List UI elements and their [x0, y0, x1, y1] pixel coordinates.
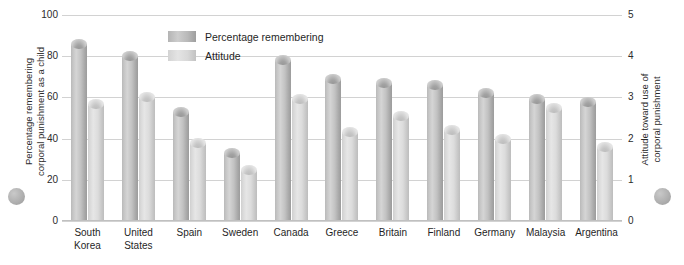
bar-percentage-remembering[interactable]: [427, 80, 443, 221]
category-axis-labels: SouthKoreaUnitedStatesSpainSwedenCanadaG…: [62, 227, 622, 265]
category-label-line1: Spain: [164, 227, 215, 240]
bar-top-ellipse: [597, 142, 613, 152]
bar-attitude[interactable]: [139, 92, 155, 221]
left-axis-tick-label: 40: [32, 133, 58, 145]
bar-attitude[interactable]: [393, 111, 409, 221]
bar-body: [342, 132, 358, 221]
bar-group: [571, 15, 622, 221]
bar-body: [139, 97, 155, 221]
bar-body: [224, 153, 240, 221]
bar-percentage-remembering[interactable]: [478, 88, 494, 221]
category-label: Greece: [317, 227, 368, 240]
bar-group: [62, 15, 113, 221]
bar-group: [113, 15, 164, 221]
legend-label: Attitude: [205, 50, 241, 62]
legend-item[interactable]: Attitude: [168, 47, 343, 64]
bar-top-ellipse: [190, 138, 206, 148]
right-axis-tick-label: 2: [628, 133, 654, 145]
category-label: Germany: [469, 227, 520, 240]
category-label: Spain: [164, 227, 215, 240]
bar-attitude[interactable]: [292, 94, 308, 221]
category-label: Malaysia: [520, 227, 571, 240]
bar-group: [418, 15, 469, 221]
right-axis-tick-label: 4: [628, 50, 654, 62]
left-axis-tick-label: 20: [32, 174, 58, 186]
left-axis-tick-label: 0: [32, 215, 58, 227]
bar-body: [478, 93, 494, 221]
bar-group: [520, 15, 571, 221]
bar-body: [71, 44, 87, 221]
bar-top-ellipse: [71, 39, 87, 49]
category-label-line1: Sweden: [215, 227, 266, 240]
category-label: Finland: [418, 227, 469, 240]
bar-body: [275, 60, 291, 221]
left-axis-tick-label: 60: [32, 91, 58, 103]
bar-percentage-remembering[interactable]: [275, 55, 291, 221]
category-label-line2: Korea: [62, 240, 113, 253]
left-axis-marker-dot: [8, 188, 25, 205]
bar-group: [469, 15, 520, 221]
bar-body: [241, 170, 257, 222]
right-axis-marker-dot: [654, 188, 671, 205]
category-label: Britain: [367, 227, 418, 240]
bar-percentage-remembering[interactable]: [529, 94, 545, 221]
bar-attitude[interactable]: [190, 138, 206, 221]
bar-body: [529, 99, 545, 221]
left-axis-ticks: 100806040200: [30, 0, 58, 265]
category-label: Canada: [266, 227, 317, 240]
legend-swatch: [168, 50, 196, 61]
bar-attitude[interactable]: [241, 165, 257, 222]
bar-percentage-remembering[interactable]: [376, 78, 392, 221]
bar-body: [546, 108, 562, 221]
bar-top-ellipse: [580, 97, 596, 107]
bar-attitude[interactable]: [342, 127, 358, 221]
bar-body: [444, 130, 460, 221]
bar-top-ellipse: [495, 134, 511, 144]
bar-body: [173, 112, 189, 221]
category-label-line1: Canada: [266, 227, 317, 240]
bar-top-ellipse: [224, 148, 240, 158]
bar-top-ellipse: [88, 99, 104, 109]
bar-body: [325, 79, 341, 221]
category-label-line1: Finland: [418, 227, 469, 240]
bar-attitude[interactable]: [597, 142, 613, 221]
bar-percentage-remembering[interactable]: [122, 51, 138, 221]
left-axis-tick-label: 80: [32, 50, 58, 62]
gridline: [62, 221, 622, 222]
bar-body: [190, 143, 206, 221]
legend-label: Percentage remembering: [205, 31, 323, 43]
bar-body: [427, 85, 443, 221]
axis-baseline: [62, 220, 622, 221]
bar-body: [88, 104, 104, 221]
right-axis-tick-label: 5: [628, 9, 654, 21]
bar-attitude[interactable]: [546, 103, 562, 221]
legend-item[interactable]: Percentage remembering: [168, 28, 343, 45]
category-label: Sweden: [215, 227, 266, 240]
bar-percentage-remembering[interactable]: [580, 97, 596, 221]
category-label-line1: Argentina: [571, 227, 622, 240]
bar-percentage-remembering[interactable]: [325, 74, 341, 221]
bar-attitude[interactable]: [495, 134, 511, 221]
category-label-line1: Germany: [469, 227, 520, 240]
right-axis-tick-label: 0: [628, 215, 654, 227]
bar-top-ellipse: [241, 165, 257, 175]
bar-body: [597, 147, 613, 221]
bar-body: [122, 56, 138, 221]
right-axis-ticks: 543210: [628, 0, 656, 265]
category-label-line1: Greece: [317, 227, 368, 240]
bar-top-ellipse: [546, 103, 562, 113]
bar-body: [580, 102, 596, 221]
bar-attitude[interactable]: [444, 125, 460, 221]
category-label-line1: Britain: [367, 227, 418, 240]
bar-body: [393, 116, 409, 221]
bar-attitude[interactable]: [88, 99, 104, 221]
bar-body: [495, 139, 511, 221]
legend-swatch: [168, 31, 196, 42]
bar-top-ellipse: [173, 107, 189, 117]
bar-percentage-remembering[interactable]: [71, 39, 87, 221]
category-label: UnitedStates: [113, 227, 164, 252]
category-label-line1: South: [62, 227, 113, 240]
right-axis-tick-label: 3: [628, 91, 654, 103]
bar-percentage-remembering[interactable]: [173, 107, 189, 221]
bar-percentage-remembering[interactable]: [224, 148, 240, 221]
